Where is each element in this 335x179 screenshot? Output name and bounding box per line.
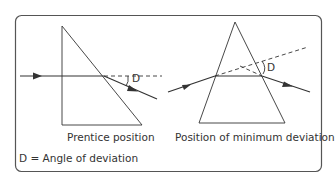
frame-border: [16, 16, 322, 172]
left-caption: Prentice position: [67, 131, 155, 143]
left-angle-label: D: [132, 72, 140, 84]
right-angle-label: D: [267, 61, 275, 73]
right-caption: Position of minimum deviation: [175, 131, 335, 143]
legend-text: D = Angle of deviation: [19, 152, 138, 164]
